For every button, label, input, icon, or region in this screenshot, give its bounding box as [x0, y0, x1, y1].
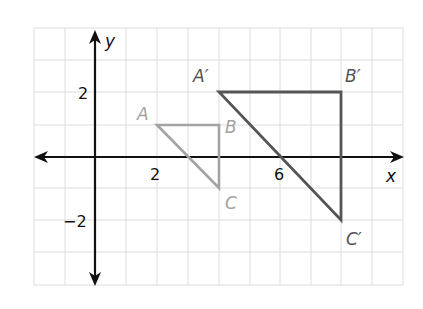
x-tick-label-2: 2: [150, 165, 160, 184]
vertex-label-a-prime: A′: [192, 66, 209, 86]
vertex-label-a: A: [136, 104, 149, 124]
vertex-label-c-prime: C′: [346, 229, 362, 249]
y-tick-label-2: 2: [78, 84, 88, 103]
x-axis-label: x: [385, 166, 397, 186]
x-tick-label-6: 6: [274, 165, 284, 184]
coordinate-plane: x y 2 6 2 −2 A B C A′ B′ C′: [0, 0, 423, 309]
vertex-label-c: C: [225, 193, 237, 213]
y-axis-label: y: [104, 31, 116, 51]
triangle-abc: A B C: [136, 104, 237, 213]
vertex-label-b: B: [225, 117, 237, 137]
y-tick-label-neg2: −2: [63, 212, 87, 231]
vertex-label-b-prime: B′: [345, 66, 361, 86]
